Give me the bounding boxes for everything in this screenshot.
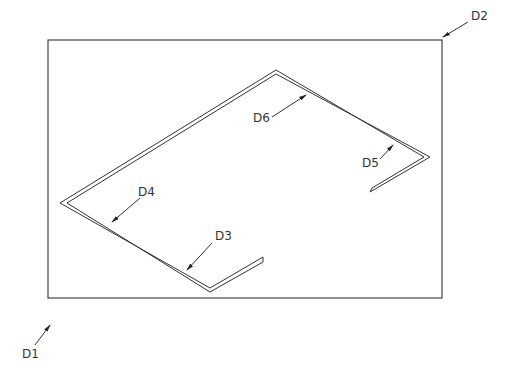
leader-d4 bbox=[112, 198, 140, 222]
channel-outer-edge bbox=[60, 70, 424, 288]
label-d3: D3 bbox=[215, 229, 232, 243]
label-d5: D5 bbox=[362, 156, 379, 170]
label-d4: D4 bbox=[138, 185, 155, 199]
leader-d2 bbox=[443, 22, 468, 37]
label-d6: D6 bbox=[253, 111, 270, 125]
plate-outline bbox=[48, 40, 442, 298]
label-d2: D2 bbox=[471, 9, 488, 23]
leader-d6 bbox=[272, 95, 306, 117]
leader-d5 bbox=[380, 145, 393, 159]
leader-d3 bbox=[187, 243, 212, 270]
channel-inner-edge bbox=[67, 74, 430, 292]
leader-d1 bbox=[35, 325, 50, 345]
drawing-canvas: D1 D2 D3 D4 D5 D6 bbox=[0, 0, 507, 383]
isometric-drawing: D1 D2 D3 D4 D5 D6 bbox=[0, 0, 507, 383]
label-d1: D1 bbox=[22, 347, 39, 361]
